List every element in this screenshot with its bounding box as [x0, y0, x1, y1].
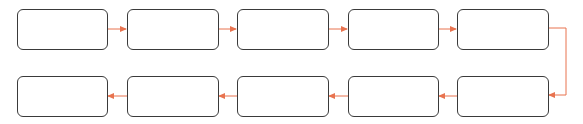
process-box-10 — [17, 76, 108, 117]
process-box-9 — [127, 76, 219, 117]
process-box-2 — [127, 9, 219, 50]
arrow-5-6 — [548, 28, 566, 95]
process-box-7 — [348, 76, 439, 117]
process-box-6 — [457, 76, 549, 117]
process-box-8 — [237, 76, 329, 117]
process-box-4 — [348, 9, 439, 50]
process-box-5 — [457, 9, 549, 50]
process-box-1 — [17, 9, 108, 50]
process-box-3 — [237, 9, 329, 50]
